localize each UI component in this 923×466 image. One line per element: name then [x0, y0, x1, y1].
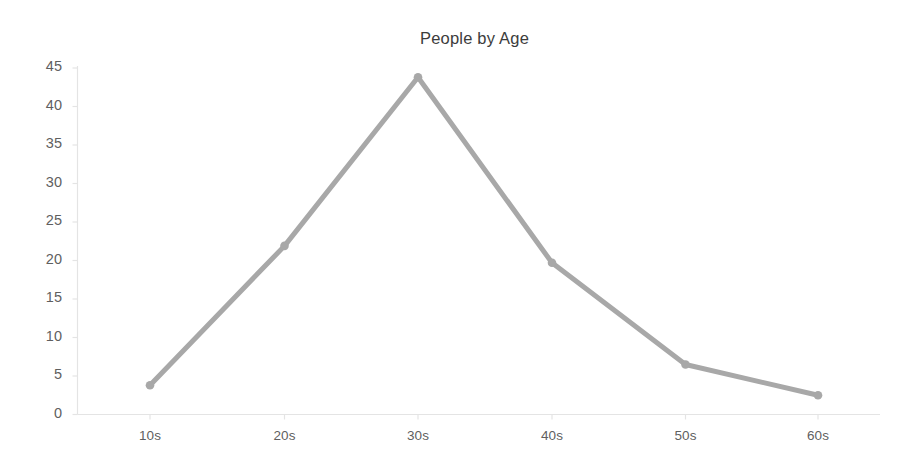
x-axis-tick-label: 50s	[656, 428, 716, 443]
data-point-marker	[280, 242, 289, 251]
y-axis-tick-label: 25	[28, 212, 62, 228]
x-axis-tick-label: 60s	[788, 428, 848, 443]
data-point-marker	[681, 360, 690, 369]
y-axis-tick-label: 15	[28, 289, 62, 305]
data-point-markers	[146, 73, 823, 400]
y-axis-tick-label: 30	[28, 174, 62, 190]
y-axis-tick-label: 10	[28, 328, 62, 344]
data-point-marker	[146, 381, 155, 390]
y-axis-ticks	[73, 68, 78, 415]
y-axis-tick-label: 45	[28, 58, 62, 74]
data-point-marker	[814, 391, 823, 400]
data-series-line	[150, 77, 818, 395]
x-axis-tick-label: 20s	[255, 428, 315, 443]
x-axis-tick-label: 30s	[388, 428, 448, 443]
data-point-marker	[414, 73, 423, 82]
x-axis-tick-label: 10s	[120, 428, 180, 443]
x-axis-ticks	[150, 415, 818, 420]
y-axis-tick-label: 0	[28, 405, 62, 421]
plot-area	[0, 0, 923, 466]
y-axis-tick-label: 35	[28, 135, 62, 151]
line-chart: People by Age 051015202530354045 10s20s3…	[0, 0, 923, 466]
y-axis-tick-label: 40	[28, 97, 62, 113]
x-axis-tick-label: 40s	[522, 428, 582, 443]
data-point-marker	[548, 259, 557, 268]
y-axis-tick-label: 20	[28, 251, 62, 267]
y-axis-tick-label: 5	[28, 366, 62, 382]
